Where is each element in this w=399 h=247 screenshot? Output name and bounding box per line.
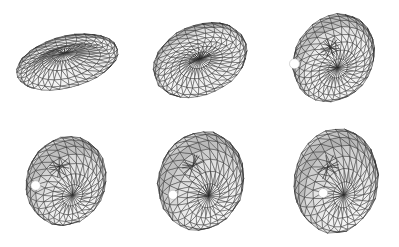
mesh-front-faces: [26, 137, 106, 226]
mesh-render-panel-5: [133, 123, 266, 246]
mesh-render-panel-6: [266, 123, 399, 246]
mesh-panel-5: [133, 123, 266, 246]
mesh-front-faces: [153, 22, 247, 97]
mesh-panel-2: [133, 0, 266, 123]
mesh-render-panel-1: [0, 0, 133, 123]
mesh-panel-4: [0, 123, 133, 246]
mesh-front-faces: [294, 129, 378, 233]
marker-patch: [31, 181, 41, 191]
mesh-panel-3: [266, 0, 399, 123]
mesh-front-faces: [157, 132, 243, 230]
mesh-panel-1: [0, 0, 133, 123]
mesh-facet: [206, 91, 215, 95]
mesh-render-panel-3: [266, 0, 399, 123]
marker-patch: [319, 188, 328, 197]
mesh-facet: [325, 129, 337, 131]
mesh-facet: [69, 85, 79, 88]
mesh-render-panel-2: [133, 0, 266, 123]
mesh-facet: [198, 94, 207, 96]
mesh-front-faces: [17, 34, 118, 90]
marker-patch: [289, 59, 299, 69]
mesh-panel-6: [266, 123, 399, 246]
mesh-render-panel-4: [0, 123, 133, 246]
marker-patch: [168, 190, 177, 199]
mesh-sequence-figure: Six rendered 3D triangulated meshes arra…: [0, 0, 399, 247]
mesh-front-faces: [293, 14, 375, 102]
